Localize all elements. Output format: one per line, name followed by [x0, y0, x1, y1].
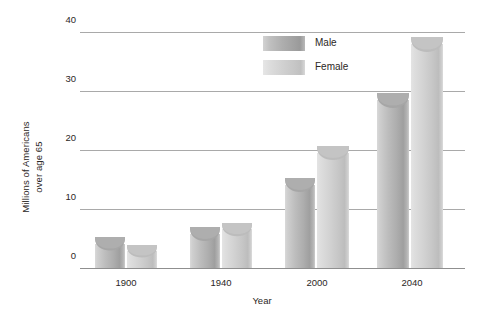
- x-axis-title: Year: [232, 295, 292, 306]
- bar-2040-male[interactable]: [377, 100, 409, 268]
- x-axis-tick-label-1900: 1900: [106, 277, 146, 288]
- legend-label-female: Female: [315, 61, 348, 72]
- legend-item-female[interactable]: Female: [263, 60, 373, 76]
- legend-label-male: Male: [315, 37, 337, 48]
- legend-swatch-female: [263, 60, 305, 75]
- legend: Male Female: [263, 36, 373, 88]
- legend-swatch-male: [263, 36, 305, 51]
- y-axis-tick-label-20: 20: [42, 132, 76, 143]
- chart-container: Millions of Americans over age 65 40 30 …: [0, 0, 503, 326]
- x-axis-tick-label-2000: 2000: [297, 277, 337, 288]
- x-axis-tick-label-2040: 2040: [392, 277, 432, 288]
- bar-1940-female[interactable]: [222, 229, 252, 268]
- bar-1940-male[interactable]: [190, 234, 220, 268]
- y-axis-tick-label-30: 30: [42, 73, 76, 84]
- bar-2000-female[interactable]: [317, 153, 349, 268]
- bar-1900-male[interactable]: [95, 244, 125, 268]
- y-axis-title-line-2: over age 65: [33, 92, 46, 242]
- y-axis-title: Millions of Americans over age 65: [12, 90, 58, 240]
- y-axis-tick-label-10: 10: [42, 191, 76, 202]
- bar-body: [285, 185, 315, 268]
- x-axis-line: [80, 268, 465, 269]
- bar-2000-male[interactable]: [285, 185, 315, 268]
- bar-1900-female[interactable]: [127, 251, 157, 268]
- bar-2040-female[interactable]: [411, 44, 443, 268]
- bar-body: [317, 153, 349, 268]
- y-axis-title-line-1: Millions of Americans: [20, 92, 33, 242]
- gridline-30: [80, 91, 465, 92]
- y-axis-tick-label-40: 40: [42, 14, 76, 25]
- legend-item-male[interactable]: Male: [263, 36, 373, 52]
- x-axis-tick-label-1940: 1940: [201, 277, 241, 288]
- y-axis-tick-label-0: 0: [42, 250, 76, 261]
- bar-body: [377, 100, 409, 268]
- bar-body: [411, 44, 443, 268]
- gridline-40: [80, 32, 465, 33]
